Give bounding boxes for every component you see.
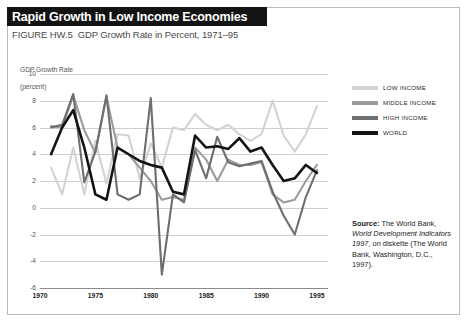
y-tick-label: 10 bbox=[29, 70, 36, 77]
legend-item: LOW INCOME bbox=[352, 80, 460, 95]
y-tick-label: 8 bbox=[32, 97, 36, 104]
page-title: Rapid Growth in Low Income Economies bbox=[12, 10, 272, 24]
y-tick-label: -4 bbox=[30, 257, 36, 264]
figure-id: FIGURE HW.5 bbox=[12, 29, 73, 40]
series-lines bbox=[40, 74, 328, 288]
legend-item-label: HIGH INCOME bbox=[383, 114, 428, 121]
x-tick-label: 1980 bbox=[143, 292, 158, 299]
series-line-high-income bbox=[51, 94, 317, 275]
y-tick-label: 4 bbox=[32, 150, 36, 157]
legend-item-label: LOW INCOME bbox=[383, 84, 426, 91]
legend-swatch-icon bbox=[352, 116, 378, 120]
y-tick-label: 6 bbox=[32, 124, 36, 131]
figure-subtitle: FIGURE HW.5GDP Growth Rate in Percent, 1… bbox=[12, 29, 238, 40]
figure-subtitle-text: GDP Growth Rate in Percent, 1971–95 bbox=[78, 29, 239, 40]
plot-area: 1086420-2-4-6 bbox=[40, 74, 328, 288]
source-note: Source: The World Bank, World Developmen… bbox=[352, 219, 452, 270]
source-label: Source: bbox=[352, 219, 380, 228]
y-tick-label: -6 bbox=[30, 284, 36, 291]
legend-swatch-icon bbox=[352, 101, 378, 105]
y-tick-label: -2 bbox=[30, 231, 36, 238]
x-tick-label: 1975 bbox=[88, 292, 103, 299]
legend-swatch-icon bbox=[352, 86, 378, 90]
x-tick-label: 1995 bbox=[309, 292, 324, 299]
legend-item: HIGH INCOME bbox=[352, 110, 460, 125]
legend-item: MIDDLE INCOME bbox=[352, 95, 460, 110]
legend-item-label: MIDDLE INCOME bbox=[383, 99, 436, 106]
y-tick-label: 0 bbox=[32, 204, 36, 211]
legend-item: WORLD bbox=[352, 125, 460, 140]
x-axis-line bbox=[40, 288, 328, 289]
x-tick-label: 1970 bbox=[32, 292, 47, 299]
x-tick-label: 1990 bbox=[254, 292, 269, 299]
source-text-1: The World Bank, bbox=[380, 219, 437, 228]
series-line-world bbox=[51, 110, 317, 200]
x-tick-label: 1985 bbox=[199, 292, 214, 299]
legend: LOW INCOMEMIDDLE INCOMEHIGH INCOMEWORLD bbox=[352, 80, 460, 140]
y-tick-label: 2 bbox=[32, 177, 36, 184]
legend-item-label: WORLD bbox=[383, 129, 407, 136]
figure-page: Rapid Growth in Low Income Economies FIG… bbox=[0, 0, 467, 326]
legend-swatch-icon bbox=[352, 131, 378, 135]
